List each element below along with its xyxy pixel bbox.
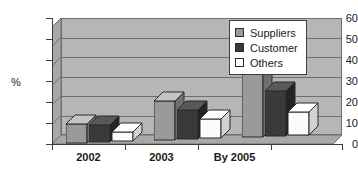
legend-label-customer: Customer — [250, 42, 298, 54]
bar-chart: 60 50 40 30 20 10 0 % 2002 2003 By 2005 … — [0, 0, 358, 170]
x-tick-4 — [342, 145, 343, 150]
bar-2003-customer — [177, 18, 198, 144]
y-tick-30 — [46, 81, 52, 82]
bar-2003-suppliers — [154, 18, 175, 144]
chart-legend: Suppliers Customer Others — [229, 20, 307, 75]
x-label-by-2005: By 2005 — [198, 151, 271, 163]
y-tick-50 — [46, 39, 52, 40]
legend-label-suppliers: Suppliers — [250, 27, 296, 39]
y-label-60: 60 — [314, 13, 358, 24]
legend-label-others: Others — [250, 57, 283, 69]
y-label-50: 50 — [314, 34, 358, 45]
y-tick-20 — [46, 102, 52, 103]
y-label-20: 20 — [314, 97, 358, 108]
y-label-40: 40 — [314, 55, 358, 66]
bar-2003-others — [200, 18, 221, 144]
legend-swatch-suppliers-icon — [235, 28, 244, 37]
x-label-2003: 2003 — [125, 151, 198, 163]
x-tick-0 — [52, 145, 53, 150]
y-tick-60 — [46, 18, 52, 19]
legend-swatch-customer-icon — [235, 43, 244, 52]
bar-2002-suppliers — [66, 18, 87, 144]
legend-item-customer: Customer — [235, 40, 298, 55]
y-axis-line — [52, 18, 53, 145]
gridline-risers — [52, 18, 64, 145]
y-tick-10 — [46, 123, 52, 124]
y-label-10: 10 — [314, 118, 358, 129]
legend-item-others: Others — [235, 55, 298, 70]
y-axis-title: % — [11, 76, 21, 88]
y-tick-40 — [46, 60, 52, 61]
x-tick-1 — [125, 145, 126, 150]
x-tick-3 — [271, 145, 272, 150]
bar-2002-customer — [89, 18, 110, 144]
bar-2002-others — [112, 18, 133, 144]
x-label-2002: 2002 — [52, 151, 125, 163]
legend-swatch-others-icon — [235, 58, 244, 67]
y-label-30: 30 — [314, 76, 358, 87]
x-tick-2 — [198, 145, 199, 150]
legend-item-suppliers: Suppliers — [235, 25, 298, 40]
